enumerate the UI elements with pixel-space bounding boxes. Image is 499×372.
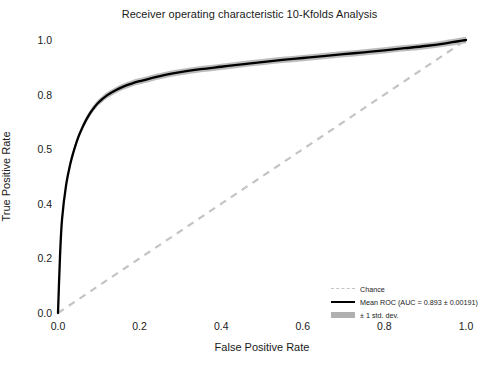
y-tick-label: 0.2 (12, 252, 52, 264)
y-tick-label: 0.5 (12, 143, 52, 155)
y-tick-label: 0.8 (12, 89, 52, 101)
y-tick-label: 0.4 (12, 198, 52, 210)
y-axis-label: True Positive Rate (0, 40, 16, 313)
legend-label-chance: Chance (360, 285, 385, 294)
legend-item-mean-roc: Mean ROC (AUC = 0.893 ± 0.00191) (330, 296, 494, 308)
legend-item-std-dev: ± 1 std. dev. (330, 309, 494, 321)
plot-svg (58, 40, 466, 313)
std-dev-band (58, 37, 466, 316)
x-tick-label: 0.2 (115, 320, 165, 332)
x-axis-tick-labels: 0.00.20.40.60.81.0 (58, 320, 466, 336)
roc-chart-figure: Receiver operating characteristic 10-Kfo… (0, 0, 499, 372)
chance-line (58, 40, 466, 313)
chart-title: Receiver operating characteristic 10-Kfo… (0, 8, 499, 20)
legend-label-std-dev: ± 1 std. dev. (360, 311, 399, 320)
band-swatch-key (330, 309, 356, 321)
y-tick-label: 1.0 (12, 34, 52, 46)
x-axis-label: False Positive Rate (58, 341, 466, 353)
x-tick-label: 0.6 (278, 320, 328, 332)
dashed-line-key (330, 283, 356, 295)
legend-label-mean-roc: Mean ROC (AUC = 0.893 ± 0.00191) (360, 298, 478, 307)
y-tick-label: 0.0 (12, 307, 52, 319)
x-tick-label: 0.0 (33, 320, 83, 332)
x-tick-label: 0.4 (196, 320, 246, 332)
solid-line-key (330, 296, 356, 308)
chart-legend: Chance Mean ROC (AUC = 0.893 ± 0.00191) … (330, 283, 494, 322)
plot-area (58, 40, 466, 313)
legend-item-chance: Chance (330, 283, 494, 295)
